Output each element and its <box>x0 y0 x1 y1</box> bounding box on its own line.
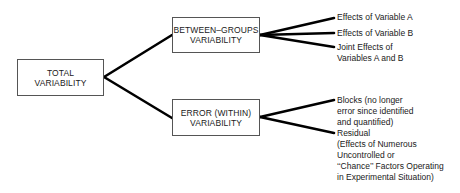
leaf-text-line: Joint Effects of <box>337 42 403 53</box>
between-groups-label-line2: VARIABILITY <box>190 35 242 45</box>
leaf-effects-variable-b: Effects of Variable B <box>337 28 413 39</box>
leaf-text-line: ‘‘Chance’’ Factors Operating <box>337 161 444 172</box>
total-variability-label-line2: VARIABILITY <box>35 78 87 88</box>
between-groups-label-line1: BETWEEN–GROUPS <box>174 25 259 35</box>
leaf-text-line: error since identified <box>337 106 414 117</box>
leaf-text-line: Residual <box>337 128 444 139</box>
connector-error-to-blocks <box>260 100 334 117</box>
leaf-joint-effects: Joint Effects of Variables A and B <box>337 42 403 64</box>
leaf-text-line: in Experimental Situation) <box>337 172 444 183</box>
error-within-label-line2: VARIABILITY <box>190 118 242 128</box>
leaf-blocks: Blocks (no longer error since identified… <box>337 95 414 128</box>
leaf-text-line: Blocks (no longer <box>337 95 414 106</box>
leaf-residual: Residual (Effects of Numerous Uncontroll… <box>337 128 444 183</box>
error-within-label-line1: ERROR (WITHIN) <box>181 108 251 118</box>
total-variability-label-line1: TOTAL <box>47 68 74 78</box>
leaf-text-line: Effects of Variable A <box>337 12 413 23</box>
leaf-effects-variable-a: Effects of Variable A <box>337 12 413 23</box>
connector-total-to-error <box>104 77 172 118</box>
connector-total-to-between <box>104 35 172 77</box>
leaf-text-line: Variables A and B <box>337 53 403 64</box>
leaf-text-line: Uncontrolled or <box>337 150 444 161</box>
leaf-text-line: Effects of Variable B <box>337 28 413 39</box>
leaf-text-line: (Effects of Numerous <box>337 139 444 150</box>
connector-error-to-residual <box>260 117 334 133</box>
leaf-text-line: and quantified) <box>337 117 414 128</box>
total-variability-box: TOTAL VARIABILITY <box>17 59 104 96</box>
connector-between-to-joint <box>260 35 334 47</box>
error-within-variability-box: ERROR (WITHIN) VARIABILITY <box>172 99 260 136</box>
between-groups-variability-box: BETWEEN–GROUPS VARIABILITY <box>172 17 260 53</box>
